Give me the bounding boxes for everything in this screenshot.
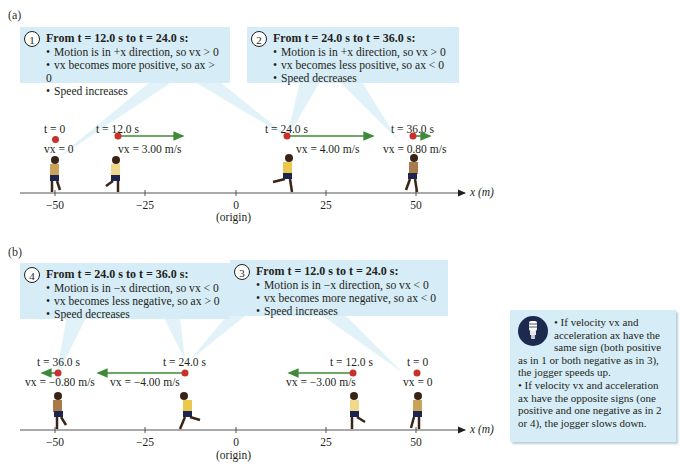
jogger-figure bbox=[53, 392, 66, 429]
axis-tick-label: 25 bbox=[306, 436, 346, 448]
axis-tick-label: 50 bbox=[396, 436, 436, 448]
axis-tick-label: −50 bbox=[35, 436, 75, 448]
axis-tick-label: 0 bbox=[216, 436, 256, 448]
info-bullet-2: • If velocity vx and acceleration ax hav… bbox=[518, 379, 670, 429]
jogger-figure bbox=[350, 392, 365, 429]
info-bullet-2-text: If velocity vx and acceleration ax have … bbox=[518, 379, 662, 429]
axis-tick-label: −25 bbox=[125, 436, 165, 448]
lightbulb-icon bbox=[518, 316, 548, 346]
jogger-figure bbox=[411, 392, 422, 429]
origin-label: (origin) bbox=[216, 449, 251, 461]
info-box: • If velocity vx and acceleration ax hav… bbox=[510, 310, 676, 442]
axis-label: x (m) bbox=[470, 423, 494, 435]
jogger-figure bbox=[180, 392, 200, 429]
